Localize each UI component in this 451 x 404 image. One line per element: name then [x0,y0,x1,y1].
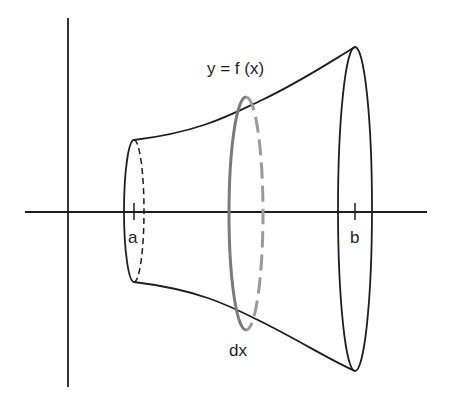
solid-of-revolution-diagram: y = f (x) a b dx [0,0,451,404]
left-end-front [124,140,134,282]
right-bound-label: b [350,228,359,247]
slice-front [229,97,246,330]
slice-back [246,97,263,330]
left-bound-label: a [128,228,138,247]
function-label: y = f (x) [207,59,264,78]
left-end-back [134,140,144,282]
slice-width-label: dx [229,341,247,360]
